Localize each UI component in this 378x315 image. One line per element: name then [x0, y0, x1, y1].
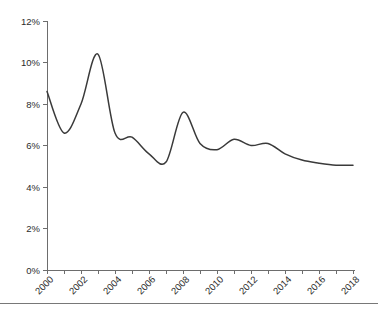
x-tick-label: 2008	[169, 274, 192, 297]
chart-container: 0%2%4%6%8%10%12% 20002002200420062008201…	[0, 0, 378, 315]
x-tick-label: 2018	[339, 274, 362, 297]
y-tick-label: 10%	[21, 57, 41, 68]
plot-area	[47, 54, 353, 166]
x-tick-label: 2006	[135, 274, 158, 297]
x-tick-label: 2002	[67, 274, 90, 297]
x-tick-label-group: 2000200220042006200820102012201420162018	[33, 274, 362, 297]
line-chart: 0%2%4%6%8%10%12% 20002002200420062008201…	[0, 0, 378, 315]
x-tick-label: 2010	[203, 274, 226, 297]
y-tick-label: 6%	[26, 140, 40, 151]
y-tick-label-group: 0%2%4%6%8%10%12%	[21, 16, 41, 276]
x-tick-label: 2012	[237, 274, 260, 297]
series-line-rate	[47, 54, 353, 166]
y-tick-label: 2%	[26, 223, 40, 234]
y-axis: 0%2%4%6%8%10%12%	[21, 16, 47, 276]
y-tick-label: 8%	[26, 99, 40, 110]
y-tick-label: 12%	[21, 16, 41, 27]
x-axis: 2000200220042006200820102012201420162018	[33, 270, 362, 296]
y-tick-label: 4%	[26, 182, 40, 193]
x-tick-label: 2016	[305, 274, 328, 297]
y-tick-label: 0%	[26, 265, 40, 276]
x-tick-label: 2004	[101, 274, 124, 297]
x-tick-label: 2014	[271, 274, 294, 297]
x-tick-label: 2000	[33, 274, 56, 297]
y-tick-group	[43, 21, 47, 270]
x-tick-group	[47, 270, 353, 274]
